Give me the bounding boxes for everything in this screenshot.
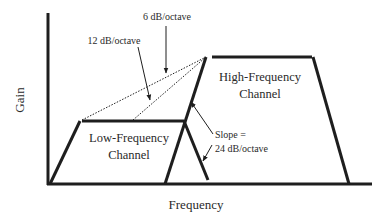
arrow-24db-lower xyxy=(203,145,212,161)
arrow-24db-upper xyxy=(191,102,213,134)
diagram-canvas: Gain Frequency Low-Frequency Channel Hig… xyxy=(0,0,392,219)
arrow-12db xyxy=(138,47,150,100)
slope-12db-label: 12 dB/octave xyxy=(87,35,141,46)
slope-6db-label: 6 dB/octave xyxy=(143,11,192,22)
x-axis-label: Frequency xyxy=(169,197,224,212)
low-channel-label-line1: Low-Frequency xyxy=(89,131,170,145)
crossover-diagram: Gain Frequency Low-Frequency Channel Hig… xyxy=(0,0,392,219)
high-channel-label-line1: High-Frequency xyxy=(219,70,302,84)
high-channel-label-line2: Channel xyxy=(239,87,281,101)
low-channel-label-line2: Channel xyxy=(108,148,150,162)
slope-24db-label-line1: Slope = xyxy=(215,129,246,140)
slope-24db-label-line2: 24 dB/octave xyxy=(215,143,269,154)
y-axis-label: Gain xyxy=(12,87,27,113)
